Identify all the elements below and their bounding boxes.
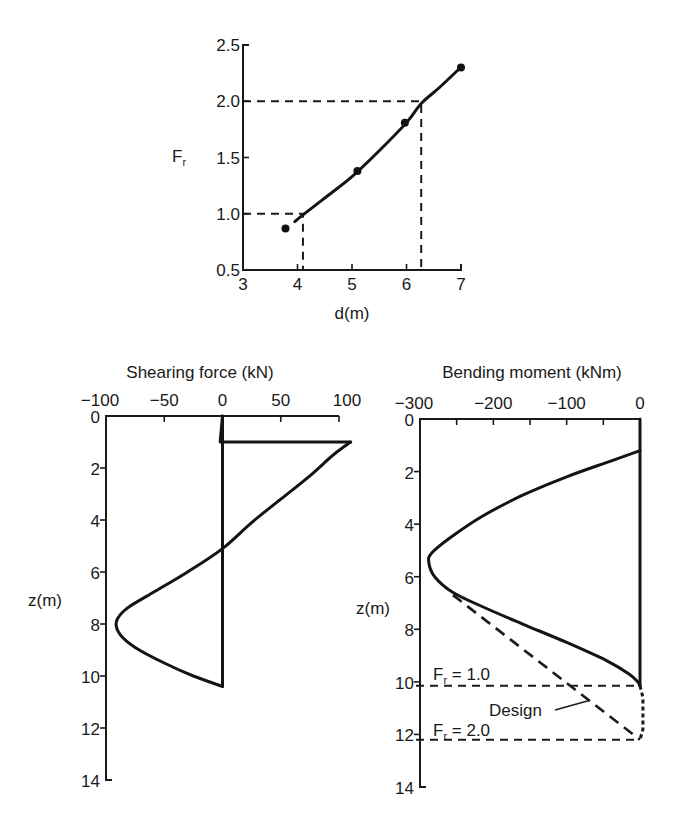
bending-moment-title: Bending moment (kNm) [442,363,622,382]
fr-vs-depth-chart: 345670.51.01.52.02.5 Fr d(m) [172,36,466,323]
fr-chart-axes: 345670.51.01.52.02.5 [216,36,465,294]
fr-axis-lines [243,45,461,270]
design-pointer-line [555,700,590,710]
fr-reference-dashed-line [243,101,421,270]
fr-y-tick-label: 1.0 [216,205,240,224]
fr-y-tick-label: 2.5 [216,36,240,55]
z-tick-label: 2 [91,460,100,479]
z-tick-label: 6 [91,564,100,583]
bending-moment-curve-line [429,451,640,686]
fr-y-tick-label: 0.5 [216,261,240,280]
x-tick-label: 50 [271,391,290,410]
design-label: Design [489,701,542,720]
fr-x-tick-label: 4 [293,275,302,294]
x-tick-label: −50 [150,391,179,410]
z-tick-label: 14 [395,779,414,798]
x-tick-label: 0 [635,394,644,413]
fr-fitted-line [295,70,459,222]
z-tick-label: 0 [91,408,100,427]
fr-fitted-curve [295,70,459,222]
z-tick-label: 10 [395,674,414,693]
z-tick-label: 0 [405,411,414,430]
fr-y-tick-label: 2.0 [216,92,240,111]
z-tick-label: 8 [405,621,414,640]
fr-x-tick-label: 5 [347,275,356,294]
z-tick-label: 6 [405,569,414,588]
z-tick-label: 10 [81,668,100,687]
z-tick-label: 8 [91,616,100,635]
shear-curve-line [116,442,351,686]
x-tick-label: −100 [548,394,586,413]
bending-moment-chart: Bending moment (kNm) −300−200−1000024681… [356,363,645,798]
fr-y-tick-label: 1.5 [216,149,240,168]
moment-tail-dotted [640,686,643,740]
z-tick-label: 12 [81,720,100,739]
x-tick-label: −200 [474,394,512,413]
fr-reference-lines [243,101,421,270]
fr-data-point [353,167,361,175]
figure: 345670.51.01.52.02.5 Fr d(m) Shearing fo… [0,0,674,825]
shearing-force-curve [116,416,351,686]
fr-x-axis-title: d(m) [335,304,370,323]
fr-data-point [282,224,290,232]
fr-x-tick-label: 7 [456,275,465,294]
fr-data-point [401,119,409,127]
bending-moment-z-axis-title: z(m) [356,599,390,618]
fr-y-axis-title: Fr [172,147,186,168]
x-tick-label: −100 [81,391,119,410]
shear-jump [220,416,350,442]
z-tick-label: 2 [405,464,414,483]
x-tick-label: 100 [333,391,361,410]
fr-2-label: Fr = 2.0 [433,721,490,742]
z-tick-label: 4 [405,516,414,535]
x-tick-label: −300 [395,394,433,413]
shearing-force-chart: Shearing force (kN) −100−500501000246810… [28,363,361,791]
fr-data-point [457,64,465,72]
figure-canvas: 345670.51.01.52.02.5 Fr d(m) Shearing fo… [0,0,674,825]
z-tick-label: 4 [91,512,100,531]
fr-1-label: Fr = 1.0 [433,665,490,686]
bending-moment-curves [416,419,643,740]
shearing-force-title: Shearing force (kN) [126,363,273,382]
fr-x-tick-label: 6 [402,275,411,294]
x-tick-label: 0 [218,391,227,410]
z-tick-label: 12 [395,726,414,745]
shearing-force-z-axis-title: z(m) [28,591,62,610]
z-tick-label: 14 [81,772,100,791]
